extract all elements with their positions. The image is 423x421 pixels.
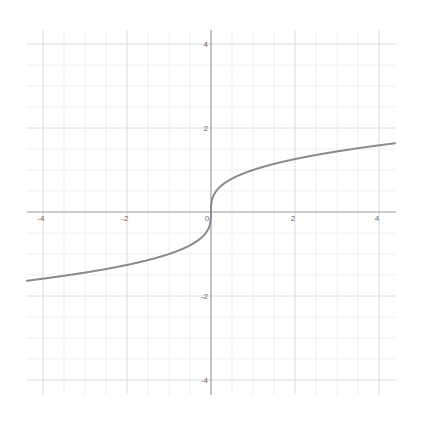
x-tick-label: -4 bbox=[37, 214, 45, 223]
y-tick-label: -2 bbox=[201, 292, 209, 301]
y-tick-label: 2 bbox=[204, 124, 209, 133]
x-tick-label: 0 bbox=[205, 214, 210, 223]
x-tick-labels: -4-2024 bbox=[37, 214, 379, 223]
function-plot: -4-2024 -4-224 bbox=[0, 0, 423, 421]
x-tick-label: 4 bbox=[375, 214, 380, 223]
y-tick-label: 4 bbox=[204, 40, 209, 49]
y-tick-label: -4 bbox=[201, 376, 209, 385]
x-tick-label: 2 bbox=[291, 214, 296, 223]
x-tick-label: -2 bbox=[121, 214, 129, 223]
